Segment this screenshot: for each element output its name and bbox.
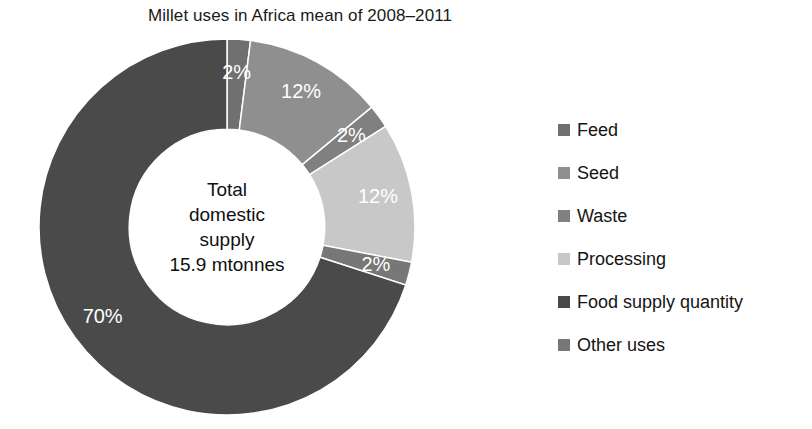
legend-item[interactable]: Food supply quantity [558,280,808,323]
slice-value-label: 2% [337,124,366,146]
slice-value-label: 2% [361,253,390,275]
legend-swatch-icon [558,339,570,351]
legend-item-label: Processing [577,250,666,268]
slice-value-label: 12% [358,185,398,207]
legend-swatch-icon [558,253,570,265]
legend-item[interactable]: Feed [558,108,808,151]
chart-title: Millet uses in Africa mean of 2008–2011 [0,6,600,26]
legend-swatch-icon [558,124,570,136]
donut-chart: 2%12%2%12%2%70% Totaldomesticsupply15.9 … [32,32,422,422]
legend-item-label: Food supply quantity [577,293,743,311]
chart-figure: Millet uses in Africa mean of 2008–2011 … [0,0,812,429]
legend-item[interactable]: Processing [558,237,808,280]
legend-item[interactable]: Other uses [558,323,808,366]
legend-item[interactable]: Waste [558,194,808,237]
legend-item-label: Other uses [577,336,665,354]
legend-item-label: Waste [577,207,627,225]
slice-value-label: 70% [83,305,123,327]
donut-svg: 2%12%2%12%2%70% [32,32,422,422]
legend-item[interactable]: Seed [558,151,808,194]
legend-item-label: Seed [577,164,619,182]
legend-swatch-icon [558,167,570,179]
donut-slices [39,39,415,415]
chart-legend: FeedSeedWasteProcessingFood supply quant… [558,108,808,366]
legend-swatch-icon [558,296,570,308]
legend-item-label: Feed [577,121,618,139]
legend-swatch-icon [558,210,570,222]
slice-value-label: 12% [281,80,321,102]
slice-value-label: 2% [222,61,251,83]
